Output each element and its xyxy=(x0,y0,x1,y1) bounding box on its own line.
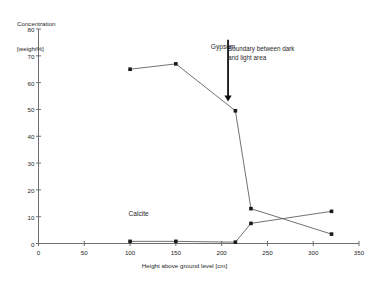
x-axis-title: Height above ground level [cm] xyxy=(0,262,369,270)
x-tick-label: 300 xyxy=(308,249,318,256)
series-line-calcite xyxy=(130,211,331,242)
x-tick-label: 100 xyxy=(125,249,135,256)
data-point-marker xyxy=(249,222,253,226)
x-tick-label: 250 xyxy=(262,249,272,256)
x-tick-label: 350 xyxy=(354,249,364,256)
y-tick-label: 20 xyxy=(19,186,35,193)
series-lines xyxy=(130,64,331,242)
chart-container: Concentration [weight%] Height above gro… xyxy=(0,0,369,281)
data-point-marker xyxy=(234,240,238,244)
y-tick-label: 70 xyxy=(19,52,35,59)
y-tick-label: 40 xyxy=(19,133,35,140)
series-markers xyxy=(128,62,333,244)
x-tick-label: 50 xyxy=(81,249,88,256)
y-tick-label: 80 xyxy=(19,26,35,33)
data-point-marker xyxy=(174,240,178,244)
y-tick-label: 0 xyxy=(19,240,35,247)
y-axis-title: Concentration [weight%] xyxy=(17,4,56,70)
data-point-marker xyxy=(249,207,253,211)
series-line-gypsum xyxy=(130,64,331,234)
y-tick-label: 30 xyxy=(19,160,35,167)
boundary-annotation-text: Boundary between dark and light area xyxy=(228,44,295,62)
data-point-marker xyxy=(330,210,334,214)
x-tick-label: 0 xyxy=(37,249,40,256)
data-point-marker xyxy=(128,240,132,244)
data-point-marker xyxy=(128,67,132,71)
y-tick-label: 50 xyxy=(19,106,35,113)
x-tick-label: 150 xyxy=(171,249,181,256)
y-tick-label: 10 xyxy=(19,213,35,220)
series-label-calcite: Calcite xyxy=(129,210,149,217)
data-point-marker xyxy=(330,232,334,236)
x-tick-label: 200 xyxy=(216,249,226,256)
data-point-marker xyxy=(174,62,178,66)
data-point-marker xyxy=(234,109,238,113)
y-tick-label: 60 xyxy=(19,79,35,86)
